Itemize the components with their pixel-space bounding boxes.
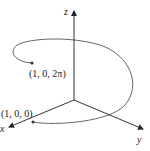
y-axis — [74, 100, 143, 129]
z-axis-label: z — [63, 6, 68, 17]
start-point — [32, 121, 35, 124]
y-axis-label: y — [136, 134, 142, 145]
end-point — [31, 62, 34, 65]
start-point-label: (1, 0, 0) — [1, 108, 33, 120]
end-point-label: (1, 0, 2π) — [29, 68, 66, 80]
helix-diagram: z x y (1, 0, 0) (1, 0, 2π) — [0, 0, 150, 151]
x-axis-label: x — [0, 123, 5, 134]
